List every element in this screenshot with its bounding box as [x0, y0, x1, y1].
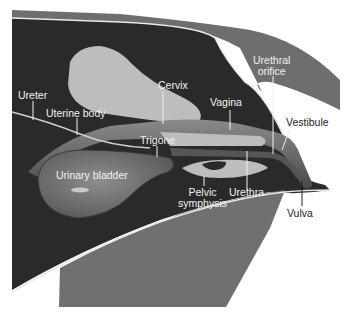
label-uterine-body: Uterine body: [46, 108, 106, 119]
label-cervix: Cervix: [158, 80, 188, 91]
label-pelvic-symphysis-line2: symphysis: [178, 198, 227, 209]
label-vulva: Vulva: [287, 208, 313, 219]
label-vestibule: Vestibule: [286, 117, 329, 128]
label-urethral-orifice-line2: orifice: [253, 66, 290, 77]
pelvis-sagittal-diagram: [0, 0, 353, 319]
label-vagina: Vagina: [210, 97, 242, 108]
label-ureter: Ureter: [18, 90, 47, 101]
label-trigone: Trigone: [140, 135, 175, 146]
label-urethral-orifice: Urethral orifice: [253, 55, 290, 77]
label-urinary-bladder: Urinary bladder: [56, 170, 128, 181]
label-urethra: Urethra: [229, 187, 264, 198]
bladder-highlight: [71, 188, 89, 193]
label-pelvic-symphysis: Pelvic symphysis: [178, 187, 227, 209]
